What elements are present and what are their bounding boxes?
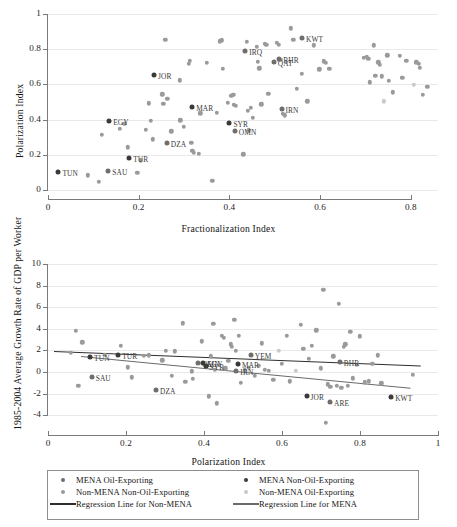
x-tick (48, 431, 49, 436)
data-point-label: DZA (171, 140, 187, 149)
legend-label: Non-MENA Oil-Exporting (259, 487, 354, 497)
y-tick (43, 264, 48, 265)
data-point-labeled (337, 360, 342, 365)
data-point (299, 323, 303, 327)
legend-item[interactable]: MENA Oil-Exporting (50, 474, 233, 486)
gridline-y (48, 84, 438, 85)
data-point (200, 339, 204, 343)
legend-item[interactable]: Non-MENA Non-Oil-Exporting (50, 486, 233, 498)
data-point (277, 42, 281, 46)
y-tick-label: 0.8 (10, 43, 41, 53)
data-point-labeled (243, 48, 248, 53)
data-point (390, 90, 394, 94)
data-point-labeled (248, 352, 253, 357)
data-point (177, 78, 181, 82)
gridline-y (48, 329, 438, 330)
data-point-labeled (164, 141, 169, 146)
data-point (323, 421, 327, 425)
data-point (404, 58, 408, 62)
data-point (256, 59, 260, 63)
data-point (249, 106, 253, 110)
data-point (271, 377, 275, 381)
data-point (241, 152, 245, 156)
data-point (99, 133, 103, 137)
data-point-labeled (89, 374, 94, 379)
data-point-label: JOR (158, 71, 171, 80)
data-point (305, 99, 309, 103)
data-point (183, 380, 187, 384)
data-point (264, 42, 268, 46)
y-tick (43, 190, 48, 191)
data-point (288, 379, 292, 383)
data-point (280, 362, 284, 366)
data-point (420, 93, 424, 97)
data-point (234, 349, 238, 353)
legend-dot-icon (61, 478, 65, 482)
legend-item[interactable]: Non-MENA Oil-Exporting (233, 486, 416, 498)
data-point (234, 103, 238, 107)
data-point (160, 92, 164, 96)
data-point (370, 362, 374, 366)
data-point (385, 53, 389, 57)
data-point (309, 343, 313, 347)
legend-item[interactable]: MENA Non-Oil-Exporting (233, 474, 416, 486)
data-point (135, 171, 139, 175)
x-tick-label: 0 (32, 202, 64, 212)
gridline-y (48, 14, 438, 15)
data-point (126, 145, 130, 149)
y-tick (43, 14, 48, 15)
data-point (210, 179, 214, 183)
data-point (173, 349, 177, 353)
x-tick-label: 0.4 (188, 438, 220, 448)
legend-dot-icon (244, 478, 248, 482)
data-point (205, 61, 209, 65)
x-tick-label: 0.4 (213, 202, 245, 212)
data-point (327, 67, 331, 71)
data-point (277, 349, 281, 353)
data-point (211, 322, 215, 326)
data-point-label: BHR (283, 55, 299, 64)
data-point-labeled (227, 121, 232, 126)
data-point-labeled (327, 400, 332, 405)
data-point (366, 379, 370, 383)
data-point-label: DZA (160, 387, 176, 396)
data-point (244, 39, 248, 43)
data-point (387, 79, 391, 83)
data-point (170, 374, 174, 378)
data-point (215, 401, 219, 405)
y-tick-label: 1 (10, 8, 41, 18)
legend-item[interactable]: Regression Line for MENA (233, 498, 416, 510)
data-point (146, 101, 150, 105)
y-axis-title-top: Polarization Index (14, 84, 25, 158)
data-point-labeled (271, 60, 276, 65)
y-axis-title-bottom: 1985-2004 Average Growth Rate of GDP per… (12, 260, 23, 430)
data-point (291, 37, 295, 41)
data-point-labeled (234, 369, 239, 374)
y-tick (43, 415, 48, 416)
data-point (118, 126, 122, 130)
x-tick (204, 431, 205, 436)
data-point (328, 384, 332, 388)
x-axis-line (48, 435, 438, 436)
data-point (239, 381, 243, 385)
data-point-labeled (235, 361, 240, 366)
plot-area-top: 00.20.40.60.8100.20.40.60.8TUNSAUEGYTURJ… (48, 14, 438, 190)
figure-root: 00.20.40.60.8100.20.40.60.8TUNSAUEGYTURJ… (0, 0, 457, 527)
data-point (160, 358, 164, 362)
legend-item[interactable]: Regression Line for Non-MENA (50, 498, 233, 510)
data-point (86, 173, 90, 177)
chart-panel-bottom: -4-2024681000.20.40.60.81TUNSAUTURDZAOMN… (0, 258, 457, 463)
legend-label: Non-MENA Non-Oil-Exporting (76, 487, 189, 497)
data-point (189, 140, 193, 144)
data-point-label: TUN (62, 168, 78, 177)
data-point (260, 341, 264, 345)
data-point-label: IRQ (249, 47, 262, 56)
data-point-label: KWT (306, 35, 323, 44)
data-point-label: MAR (196, 104, 213, 113)
data-point (358, 334, 362, 338)
data-point-labeled (304, 393, 309, 398)
data-point (375, 353, 379, 357)
legend-label: MENA Oil-Exporting (76, 475, 153, 485)
data-point-label: BHR (344, 359, 360, 368)
legend-line-icon (50, 503, 76, 505)
